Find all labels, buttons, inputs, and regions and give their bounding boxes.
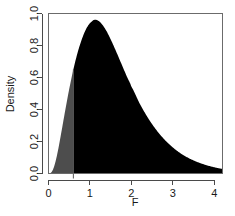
y-axis-title: Density [4, 75, 16, 112]
y-tick-label: 0.6 [28, 70, 40, 85]
y-tick-label: 0.8 [28, 38, 40, 53]
x-tick-label: 4 [211, 187, 217, 199]
x-tick-label: 0 [45, 187, 51, 199]
x-tick-label: 3 [170, 187, 176, 199]
f-density-chart: 01234 0.00.20.40.60.81.0 F Density [0, 0, 235, 216]
y-tick-label: 0.0 [28, 166, 40, 181]
y-tick-label: 0.2 [28, 134, 40, 149]
y-tick-label: 1.0 [28, 6, 40, 21]
x-tick-label: 1 [87, 187, 93, 199]
x-axis-title: F [132, 196, 139, 208]
chart-container: 01234 0.00.20.40.60.81.0 F Density [0, 0, 235, 216]
y-tick-label: 0.4 [28, 102, 40, 117]
